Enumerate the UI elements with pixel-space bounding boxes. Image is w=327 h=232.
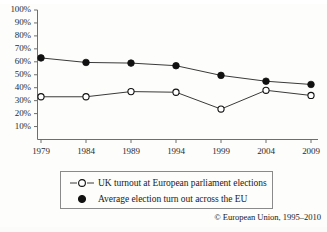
y-axis-tick-label: 80% (3, 30, 31, 40)
page-margin-bottom (0, 227, 327, 232)
data-point (38, 94, 44, 100)
x-axis-tick-label: 1984 (69, 146, 103, 156)
y-axis-ticks (34, 10, 38, 127)
data-point (83, 59, 90, 66)
data-point (308, 81, 315, 88)
data-point (38, 55, 45, 62)
x-axis-ticks (41, 140, 311, 144)
data-point (263, 87, 269, 93)
y-axis-tick-label: 70% (3, 43, 31, 53)
filled-circle-marker-icon (69, 193, 95, 205)
y-axis-tick-label: 20% (3, 108, 31, 118)
data-point (173, 62, 180, 69)
x-axis-tick-label: 1994 (159, 146, 193, 156)
chart-legend: UK turnout at European parliament electi… (60, 171, 273, 209)
legend-label-eu-average: Average election turn out across the EU (98, 194, 247, 204)
data-point (83, 94, 89, 100)
series-markers (38, 55, 315, 113)
data-point (173, 89, 179, 95)
legend-entry-eu-average: Average election turn out across the EU (69, 191, 247, 207)
copyright-credit: © European Union, 1995–2010 (214, 212, 321, 222)
data-point (263, 78, 270, 85)
y-axis-tick-label: 100% (3, 4, 31, 14)
y-axis-tick-label: 60% (3, 56, 31, 66)
x-axis-tick-label: 1989 (114, 146, 148, 156)
series-line-eu-average (41, 58, 311, 85)
data-point (128, 60, 135, 67)
y-axis-tick-label: 40% (3, 82, 31, 92)
x-axis-tick-label: 2009 (294, 146, 327, 156)
chart-figure: 100%90%80%70%60%50%40%30%20%10% 19791984… (0, 0, 327, 232)
x-axis-tick-label: 1979 (24, 146, 58, 156)
legend-entry-uk-turnout: UK turnout at European parliament electi… (69, 175, 267, 191)
legend-label-uk-turnout: UK turnout at European parliament electi… (98, 178, 267, 188)
data-point (218, 72, 225, 79)
y-axis-tick-label: 10% (3, 121, 31, 131)
data-point (218, 106, 224, 112)
x-axis-tick-label: 1999 (204, 146, 238, 156)
page-margin-top (0, 0, 327, 4)
y-axis-tick-label: 50% (3, 69, 31, 79)
y-axis-tick-label: 90% (3, 17, 31, 27)
data-point (308, 92, 314, 98)
data-point (128, 88, 134, 94)
open-circle-marker-icon (69, 177, 95, 189)
y-axis-tick-label: 30% (3, 95, 31, 105)
x-axis-tick-label: 2004 (249, 146, 283, 156)
